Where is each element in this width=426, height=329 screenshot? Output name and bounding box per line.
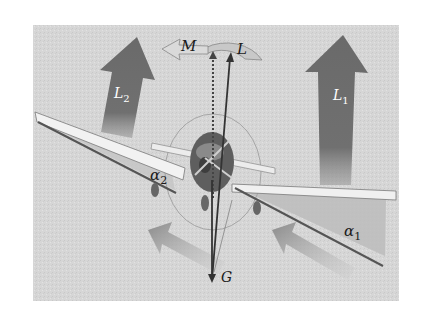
label-lift-l1-main: L: [332, 87, 342, 103]
label-moment: M: [180, 37, 197, 55]
label-lift-l2-sub: 2: [123, 93, 129, 104]
label-lift-l1-sub: 1: [342, 95, 348, 106]
label-alpha1-main: α: [344, 222, 354, 240]
label-alpha1-sub: 1: [354, 230, 361, 243]
landing-gear-right: [253, 201, 261, 215]
label-alpha2-main: α: [150, 166, 160, 184]
landing-gear-left: [151, 183, 159, 197]
landing-gear-center: [201, 195, 209, 211]
label-total-lift: L: [236, 40, 247, 58]
roll-diagram: M L G L2 L1 α2 α1: [0, 0, 426, 329]
label-lift-l2-main: L: [113, 85, 123, 101]
label-alpha2-sub: 2: [160, 174, 167, 187]
label-gravity: G: [221, 269, 232, 285]
